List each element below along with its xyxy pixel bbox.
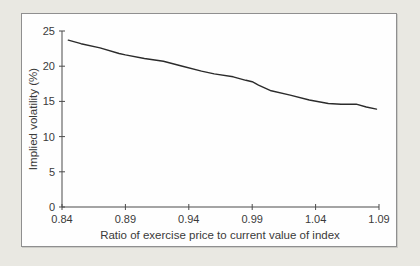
x-tick-label: 0.99 xyxy=(241,213,262,225)
y-tick-label: 5 xyxy=(49,166,55,178)
x-tick-label: 0.94 xyxy=(178,213,199,225)
chart-series-layer xyxy=(68,40,376,109)
x-axis-title: Ratio of exercise price to current value… xyxy=(100,229,340,241)
chart-axes-layer xyxy=(59,31,379,210)
chart-tick-labels-layer: 0.840.890.940.991.041.090510152025 xyxy=(43,25,390,225)
y-tick-label: 15 xyxy=(43,95,55,107)
x-tick-label: 0.84 xyxy=(51,213,72,225)
chart-svg: 0.840.890.940.991.041.090510152025 Ratio… xyxy=(22,14,396,246)
y-tick-label: 0 xyxy=(49,201,55,213)
volatility-line xyxy=(68,40,376,109)
page-background: 0.840.890.940.991.041.090510152025 Ratio… xyxy=(0,0,420,266)
x-tick-label: 0.89 xyxy=(115,213,136,225)
y-tick-label: 10 xyxy=(43,131,55,143)
y-axis-title: Implied volatility (%) xyxy=(27,68,39,170)
y-tick-label: 25 xyxy=(43,25,55,37)
y-tick-label: 20 xyxy=(43,60,55,72)
x-tick-label: 1.09 xyxy=(368,213,389,225)
volatility-chart-panel: 0.840.890.940.991.041.090510152025 Ratio… xyxy=(21,13,397,247)
x-tick-label: 1.04 xyxy=(305,213,326,225)
